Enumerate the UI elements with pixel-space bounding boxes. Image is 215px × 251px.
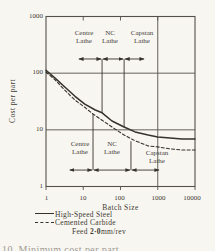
legend-line-solid bbox=[35, 213, 54, 214]
label-centre-lathe-top: Centre Lathe bbox=[75, 29, 94, 46]
legend-line-dashed bbox=[35, 222, 54, 223]
y-tick-100: 100 bbox=[33, 69, 44, 77]
x-tick-1: 1 bbox=[45, 195, 49, 203]
plot-frame bbox=[46, 17, 195, 187]
feed-note: Feed 2·0mm/rev bbox=[72, 227, 126, 236]
x-tick-1000: 1000 bbox=[152, 195, 166, 203]
label-centre-lathe-bottom: Centre Lathe bbox=[71, 140, 90, 157]
x-tick-10: 10 bbox=[80, 195, 87, 203]
label-capstan-lathe-bottom: Capstan Lathe bbox=[146, 149, 169, 166]
curve-high-speed-steel bbox=[46, 70, 195, 139]
caption-fragment: 10. Minimum cost per part bbox=[2, 244, 213, 251]
y-tick-1: 1 bbox=[40, 183, 44, 191]
y-tick-1000: 1000 bbox=[29, 13, 43, 21]
y-axis-title: Cost per part bbox=[8, 79, 17, 123]
x-tick-100: 100 bbox=[114, 195, 125, 203]
y-tick-10: 10 bbox=[36, 126, 43, 134]
label-nc-lathe-bottom: NC Lathe bbox=[104, 140, 120, 157]
label-nc-lathe-top: NC Lathe bbox=[102, 29, 118, 46]
x-tick-10000: 10000 bbox=[183, 195, 201, 203]
figure-minimum-cost-per-part: 1000 100 10 1 1 10 100 1000 10000 Batch … bbox=[0, 0, 215, 251]
feed-value: 2·0 bbox=[90, 227, 101, 236]
label-capstan-lathe-top: Capstan Lathe bbox=[131, 29, 154, 46]
